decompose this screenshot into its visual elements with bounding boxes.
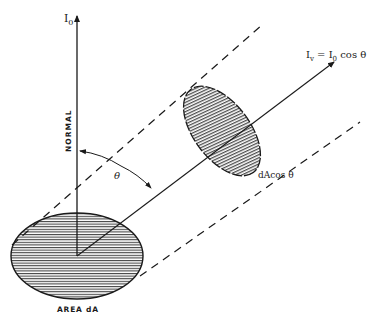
viewed-intensity-label: Iv = I0 cos θ [306,49,366,63]
normal-intensity-label: I0 [64,12,73,27]
normal-axis-label: NORMAL [64,110,73,152]
angle-label: θ [114,170,120,181]
source-area-label: AREA dA [57,305,99,314]
angle-arc-end [121,166,151,188]
lambert-cosine-diagram: I0 NORMAL θ Iv = I0 cos θ dAcos θ AREA d… [0,0,369,316]
angle-arc [80,151,121,166]
projected-area-label: dAcos θ [258,170,294,180]
